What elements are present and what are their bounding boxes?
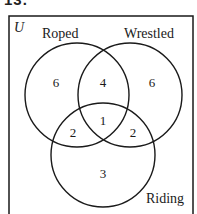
region-roped-riding: 2	[70, 125, 77, 140]
region-all-three: 1	[100, 113, 107, 128]
venn-diagram: U Roped Wrestled Riding 6 4 6 1 2 2 3	[0, 0, 197, 214]
roped-label: Roped	[42, 26, 79, 41]
region-riding-only: 3	[100, 166, 107, 181]
region-wrestled-riding: 2	[130, 125, 137, 140]
roped-circle	[25, 43, 129, 147]
riding-label: Riding	[146, 191, 184, 206]
region-wrestled-only: 6	[149, 75, 156, 90]
universe-label: U	[14, 20, 25, 35]
wrestled-label: Wrestled	[124, 26, 174, 41]
region-roped-only: 6	[53, 75, 60, 90]
region-roped-wrestled: 4	[100, 75, 107, 90]
